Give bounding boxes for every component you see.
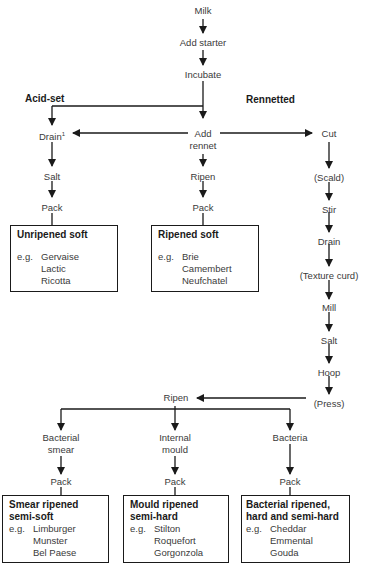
outcome-ripened-soft: Ripened soft e.g. Brie Camembert Neufcha… — [151, 225, 259, 292]
step-add-rennet: Addrennet — [190, 128, 217, 152]
step-internal-mould: Internalmould — [159, 432, 191, 456]
step-bacterial-smear: Bacterialsmear — [43, 432, 80, 456]
step-mill: Mill — [322, 302, 336, 314]
step-ripen-soft: Ripen — [191, 171, 216, 183]
outcome-smear-ripened: Smear ripened semi-soft e.g. Limburger M… — [2, 495, 109, 563]
header-acid-set: Acid-set — [25, 93, 64, 104]
step-texture-curd: (Texture curd) — [300, 270, 359, 282]
step-hoop: Hoop — [318, 367, 341, 379]
header-rennetted: Rennetted — [246, 94, 295, 105]
step-pack-smear: Pack — [50, 476, 71, 488]
step-pack-mould: Pack — [164, 476, 185, 488]
step-salt-curd: Salt — [321, 335, 337, 347]
step-drain-acid: Drain1 — [39, 128, 65, 143]
step-scald: (Scald) — [314, 172, 344, 184]
step-cut: Cut — [322, 128, 337, 140]
step-add-starter: Add starter — [180, 37, 226, 49]
step-press: (Press) — [314, 398, 345, 410]
step-pack-soft: Pack — [192, 202, 213, 214]
outcome-mould-ripened: Mould ripened semi-hard e.g. Stilton Roq… — [123, 495, 229, 563]
step-drain-curd: Drain — [318, 236, 341, 248]
outcome-bacterial-ripened: Bacterial ripened, hard and semi-hard e.… — [241, 495, 350, 563]
step-milk: Milk — [195, 5, 212, 17]
step-pack-acid: Pack — [41, 202, 62, 214]
step-stir: Stir — [322, 204, 336, 216]
outcome-unripened-soft: Unripened soft e.g. Gervaise Lactic Rico… — [10, 225, 118, 292]
step-bacteria: Bacteria — [273, 432, 308, 444]
footnote-marker: 1 — [62, 131, 65, 137]
step-ripen-main: Ripen — [164, 392, 189, 404]
step-salt-acid: Salt — [44, 171, 60, 183]
step-incubate: Incubate — [185, 69, 221, 81]
step-pack-bacteria: Pack — [279, 476, 300, 488]
